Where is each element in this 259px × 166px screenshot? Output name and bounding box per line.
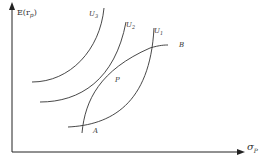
optimal-portfolio-diagram: E(rp) σP U3 U2 U1 P A B <box>0 0 259 166</box>
indifference-curve-u1 <box>68 28 154 127</box>
x-axis-arrow-icon <box>237 149 245 155</box>
y-axis-arrow-icon <box>9 2 15 10</box>
x-axis-label: σP <box>247 141 259 154</box>
point-p-label: P <box>114 76 120 84</box>
y-axis-label: E(rp) <box>17 8 37 19</box>
efficient-frontier <box>82 45 168 133</box>
diagram-svg: E(rp) σP U3 U2 U1 P A B <box>0 0 259 166</box>
point-b-label: B <box>178 41 184 49</box>
indifference-curve-u2 <box>40 22 126 102</box>
indifference-curve-u3 <box>32 8 104 82</box>
curve-label-u2: U2 <box>126 21 135 30</box>
curve-label-u1: U1 <box>154 27 163 36</box>
point-a-label: A <box>92 127 98 135</box>
curve-label-u3: U3 <box>89 10 98 19</box>
